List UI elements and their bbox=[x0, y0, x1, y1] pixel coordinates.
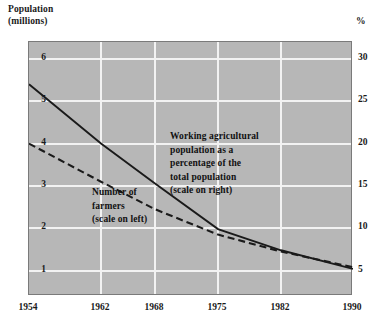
x-tick-label: 1975 bbox=[197, 302, 237, 312]
x-tick-label: 1954 bbox=[8, 302, 48, 312]
y-axis-left-title: Population (millions) bbox=[8, 3, 53, 27]
y-tick-label-left: 4 bbox=[26, 137, 46, 147]
y-tick-label-left: 3 bbox=[26, 179, 46, 189]
x-tick-label: 1982 bbox=[260, 302, 300, 312]
y-tick-label-right: 10 bbox=[358, 221, 380, 231]
y-tick-label-right: 25 bbox=[358, 94, 380, 104]
y-tick-label-left: 6 bbox=[26, 52, 46, 62]
y-tick-label-right: 30 bbox=[358, 52, 380, 62]
annotation-left-series: Number of farmers (scale on left) bbox=[92, 186, 147, 227]
y-tick-label-right: 5 bbox=[358, 264, 380, 274]
y-tick-label-right: 15 bbox=[358, 179, 380, 189]
y-tick-label-left: 5 bbox=[26, 94, 46, 104]
y-tick-label-left: 2 bbox=[26, 221, 46, 231]
annotation-right-series: Working agricultural population as a per… bbox=[170, 130, 259, 198]
y-axis-right-title: % bbox=[356, 16, 366, 26]
x-tick-label: 1968 bbox=[134, 302, 174, 312]
chart-figure: Population (millions) % 654321 302520151… bbox=[0, 0, 380, 326]
x-tick-label: 1962 bbox=[80, 302, 120, 312]
x-tick-label: 1990 bbox=[332, 302, 372, 312]
y-tick-label-left: 1 bbox=[26, 264, 46, 274]
y-tick-label-right: 20 bbox=[358, 137, 380, 147]
